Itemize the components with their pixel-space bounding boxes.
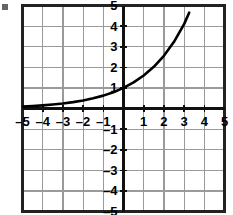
- y-tick-label: –5: [103, 204, 117, 215]
- x-tick-label: –4: [35, 114, 50, 129]
- x-tick-label: 3: [180, 114, 187, 129]
- coordinate-plane: –5–4–3–2–112345 54321–1–2–3–4–5: [0, 0, 233, 215]
- x-tick-label: –3: [56, 114, 70, 129]
- x-tick-label: –5: [15, 114, 29, 129]
- scan-artifact-mark: [2, 4, 8, 10]
- x-tick-label: –2: [76, 114, 90, 129]
- y-tick-label: –1: [103, 122, 117, 137]
- y-tick-label: 1: [110, 80, 117, 95]
- y-tick-label: 2: [110, 60, 117, 75]
- x-tick-label: 2: [160, 114, 167, 129]
- y-tick-label: 5: [110, 0, 117, 13]
- y-tick-label: –2: [103, 142, 117, 157]
- x-axis-tick-labels: –5–4–3–2–112345: [15, 114, 228, 129]
- x-tick-label: 4: [201, 114, 209, 129]
- y-tick-label: 4: [110, 19, 118, 34]
- graph-figure: –5–4–3–2–112345 54321–1–2–3–4–5: [0, 0, 233, 215]
- y-tick-label: –4: [103, 183, 118, 198]
- x-tick-label: 1: [140, 114, 147, 129]
- y-tick-label: 3: [110, 39, 117, 54]
- axis-lines: [23, 6, 225, 212]
- y-tick-label: –3: [103, 163, 117, 178]
- x-tick-label: 5: [221, 114, 228, 129]
